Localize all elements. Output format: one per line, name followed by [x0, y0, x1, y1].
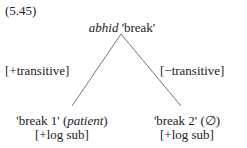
left-branch-feature: [+transitive] [5, 64, 69, 78]
left-branch-line [72, 34, 121, 106]
left-leaf-node: 'break 1' (patient) [16, 114, 107, 128]
left-leaf-gloss: 'break 1' [16, 113, 59, 128]
left-leaf-arg: patient [67, 113, 103, 128]
right-leaf-gloss: 'break 2' [154, 113, 197, 128]
right-leaf-arg: (∅) [200, 113, 220, 128]
right-branch-feature: [−transitive] [160, 64, 224, 78]
left-leaf-feature: [+log sub] [35, 128, 89, 142]
right-leaf-node: 'break 2' (∅) [154, 114, 220, 128]
right-leaf-feature: [+log sub] [160, 128, 214, 142]
